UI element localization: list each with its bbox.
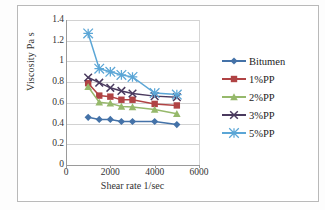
data-point-diamond — [85, 114, 92, 121]
legend-item[interactable]: 1%PP — [222, 70, 314, 88]
data-point-star — [172, 90, 182, 100]
x-tick-label: 6000 — [179, 167, 219, 177]
data-point-diamond — [118, 118, 125, 125]
data-point-diamond — [173, 121, 180, 128]
x-axis-title: Shear rate 1/sec — [66, 180, 199, 191]
x-tick-mark — [110, 165, 111, 168]
legend-item[interactable]: 2%PP — [222, 88, 314, 106]
legend-marker-icon — [222, 127, 246, 139]
x-tick-mark — [155, 165, 156, 168]
legend-item[interactable]: Bitumen — [222, 52, 314, 70]
data-point-cross — [95, 79, 103, 87]
data-point-star — [150, 88, 160, 98]
data-point-star — [94, 64, 104, 74]
x-tick-label: 4000 — [135, 167, 175, 177]
legend-marker-icon — [222, 91, 246, 103]
x-tick-mark — [199, 165, 200, 168]
legend-label: 3%PP — [249, 110, 275, 121]
legend-label: 5%PP — [249, 128, 275, 139]
data-point-star — [229, 128, 239, 138]
legend-marker-icon — [222, 73, 246, 85]
data-point-square — [231, 76, 237, 82]
data-point-diamond — [96, 116, 103, 123]
legend-swatch-diamond-icon — [222, 55, 246, 67]
legend-swatch-star-icon — [222, 127, 246, 139]
x-tick-label: 2000 — [90, 167, 130, 177]
legend-marker-icon — [222, 109, 246, 121]
chart-legend: Bitumen1%PP2%PP3%PP5%PP — [222, 52, 314, 142]
legend-item[interactable]: 3%PP — [222, 106, 314, 124]
data-point-star — [128, 72, 138, 82]
legend-swatch-triangle-icon — [222, 91, 246, 103]
data-point-square — [129, 97, 135, 103]
data-point-triangle — [230, 93, 238, 100]
legend-swatch-square-icon — [222, 73, 246, 85]
data-point-square — [107, 93, 113, 99]
data-point-diamond — [129, 118, 136, 125]
data-point-square — [118, 97, 124, 103]
data-point-star — [106, 67, 116, 77]
legend-item[interactable]: 5%PP — [222, 124, 314, 142]
legend-label: 2%PP — [249, 92, 275, 103]
data-point-square — [96, 92, 102, 98]
data-point-diamond — [107, 116, 114, 123]
legend-marker-icon — [222, 55, 246, 67]
data-point-cross — [230, 111, 238, 119]
legend-label: 1%PP — [249, 74, 275, 85]
legend-swatch-cross-icon — [222, 109, 246, 121]
x-tick-mark — [66, 165, 67, 168]
data-point-square — [174, 102, 180, 108]
data-point-diamond — [151, 118, 158, 125]
data-point-diamond — [230, 57, 237, 64]
data-point-star — [83, 29, 93, 39]
chart-figure: 00.20.40.60.811.21.4 Viscosity Pa s 0200… — [0, 0, 325, 210]
x-tick-label: 0 — [46, 167, 86, 177]
data-point-star — [117, 70, 127, 80]
legend-label: Bitumen — [249, 56, 285, 67]
